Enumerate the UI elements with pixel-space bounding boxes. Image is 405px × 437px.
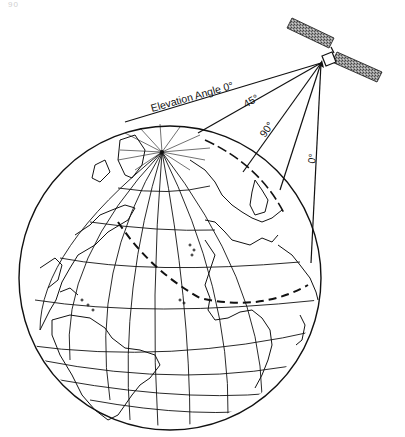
satellite [287, 18, 382, 82]
satellite-body [322, 52, 336, 66]
earth-globe [19, 124, 321, 430]
solar-panel-right [332, 52, 382, 82]
line-elevation-45 [198, 63, 321, 133]
label-elevation-90: 90° [257, 119, 276, 139]
line-nadir [280, 63, 321, 190]
solar-panel-left [287, 18, 334, 48]
sub-satellite-point [160, 150, 164, 154]
label-elevation-0-top: Elevation Angle 0° [149, 79, 234, 114]
label-elevation-0-right: 0° [305, 153, 318, 165]
satellite-coverage-diagram: Elevation Angle 0° 45° 90° 0° [0, 0, 405, 437]
